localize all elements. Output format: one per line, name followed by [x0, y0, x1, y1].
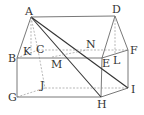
- label-A: A: [24, 5, 34, 18]
- label-L: L: [113, 54, 121, 67]
- label-N: N: [86, 38, 96, 51]
- label-B: B: [8, 52, 16, 65]
- label-H: H: [97, 98, 107, 111]
- label-G: G: [8, 91, 17, 104]
- label-I: I: [131, 83, 135, 96]
- label-D: D: [112, 3, 121, 16]
- label-J: J: [39, 79, 44, 92]
- label-C: C: [36, 43, 44, 56]
- point-labels: A D B K C M N E L F J G H I: [8, 3, 138, 111]
- label-M: M: [51, 58, 62, 71]
- geometry-diagram: A D B K C M N E L F J G H I: [0, 0, 144, 115]
- label-F: F: [130, 44, 138, 57]
- label-E: E: [102, 57, 110, 70]
- label-K: K: [23, 45, 32, 58]
